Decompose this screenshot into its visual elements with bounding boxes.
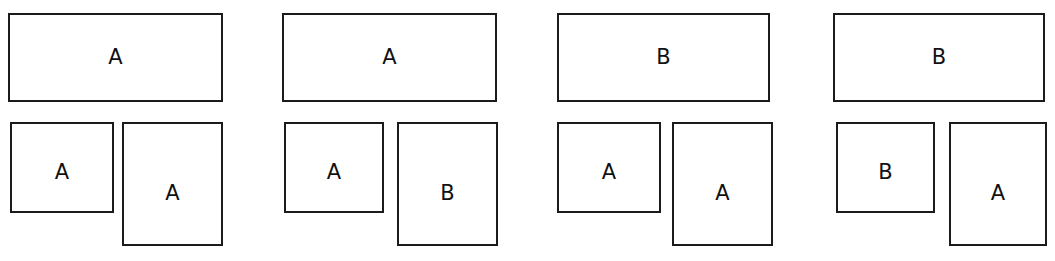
shape-group-1: A A A	[8, 0, 223, 261]
diagram-canvas: A A A A A B B A A B	[0, 0, 1055, 261]
group-1-bottom-left-label: A	[55, 162, 69, 183]
group-1-top-rectangle: A	[8, 13, 223, 102]
shape-group-3: B A A	[557, 0, 773, 261]
group-2-bottom-left-label: A	[327, 162, 341, 183]
shape-group-2: A A B	[282, 0, 498, 261]
group-1-top-label: A	[108, 47, 122, 68]
group-2-bottom-right-label: B	[440, 183, 454, 204]
group-3-bottom-left-square: A	[557, 122, 661, 213]
group-4-bottom-right-label: A	[991, 183, 1005, 204]
group-4-bottom-right-rectangle: A	[949, 122, 1047, 246]
group-3-bottom-left-label: A	[602, 162, 616, 183]
group-3-bottom-right-rectangle: A	[672, 122, 773, 246]
group-3-top-label: B	[656, 47, 670, 68]
group-3-top-rectangle: B	[557, 13, 770, 102]
group-1-bottom-right-rectangle: A	[122, 122, 223, 246]
group-2-top-label: A	[382, 47, 396, 68]
group-1-bottom-right-label: A	[165, 183, 179, 204]
group-4-bottom-left-label: B	[878, 162, 892, 183]
group-2-bottom-right-rectangle: B	[397, 122, 498, 246]
group-2-bottom-left-square: A	[284, 122, 384, 213]
group-3-bottom-right-label: A	[715, 183, 729, 204]
shape-group-4: B B A	[833, 0, 1047, 261]
group-4-bottom-left-square: B	[836, 122, 935, 213]
group-4-top-rectangle: B	[833, 13, 1045, 102]
group-4-top-label: B	[932, 47, 946, 68]
group-1-bottom-left-square: A	[10, 122, 114, 213]
group-2-top-rectangle: A	[282, 13, 497, 102]
